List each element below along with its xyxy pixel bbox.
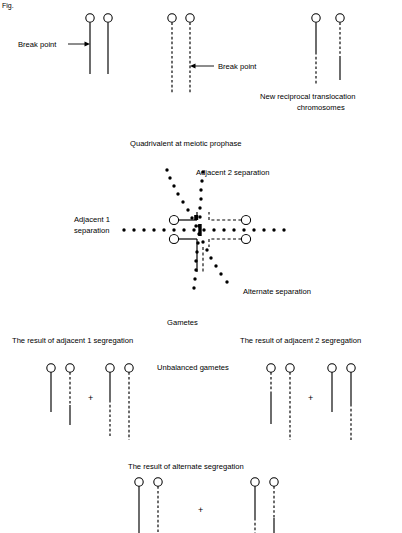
gamete-group-adjacent2-b (328, 364, 355, 440)
gamete-group-adjacent1-b (106, 364, 133, 440)
chromosome-dashed-a (168, 14, 176, 93)
centromere-icon (251, 478, 259, 486)
gametes-title: Gametes (167, 318, 198, 327)
chromosome-a2-4 (347, 364, 355, 440)
normal-solid-pair: Break point (18, 14, 112, 74)
quadrivalent-title: Quadrivalent at meiotic prophase (130, 139, 241, 148)
gamete-group-adjacent2-a (267, 364, 294, 440)
translocation-product-pair: New reciprocal translocation chromosomes (260, 14, 355, 112)
break-point-label-left: Break point (18, 40, 57, 49)
centromere-icon (267, 364, 275, 372)
adjacent-1-result-label: The result of adjacent 1 segregation (12, 336, 133, 345)
chromosome-a2-2 (286, 364, 294, 440)
centromere-icon (154, 478, 162, 486)
adjacent-2-result-label: The result of adjacent 2 segregation (240, 336, 361, 345)
plus-sign-adjacent1: + (88, 393, 93, 403)
centromere-icon (312, 14, 320, 22)
chromosome-a2-3 (328, 364, 336, 412)
separation-line-adjacent-1 (122, 228, 285, 231)
chromosome-a1-1 (47, 364, 55, 412)
centromere-icon (241, 234, 250, 243)
alternate-result-label: The result of alternate segregation (128, 462, 244, 471)
centromere-icon (241, 215, 250, 224)
break-point-arrow-left (68, 42, 90, 47)
chromosome-a2-1 (267, 364, 275, 424)
break-point-arrow-right (190, 64, 214, 69)
centromere-icon (47, 364, 55, 372)
arrow-head (85, 42, 91, 47)
unbalanced-gametes-label: Unbalanced gametes (157, 363, 229, 372)
gamete-group-alternate-a (135, 478, 162, 533)
plus-sign-alternate: + (198, 505, 203, 515)
chromosome-alt-4 (270, 478, 278, 533)
quadrivalent-arm-lower-left (169, 234, 197, 247)
break-point-label-right: Break point (218, 62, 257, 71)
chromosome-solid-b (104, 14, 112, 74)
centromere-icon (66, 364, 74, 372)
pairing-node-upper-left (194, 215, 198, 220)
adjacent-2-separation-label: Adjacent 2 separation (196, 168, 269, 177)
plus-sign-adjacent2: + (308, 393, 313, 403)
adjacent-1-separation-label-line1: Adjacent 1 (74, 215, 110, 224)
centromere-icon (270, 478, 278, 486)
translocation-caption-line2: chromosomes (297, 103, 345, 112)
centromere-icon (336, 14, 344, 22)
quadrivalent-arm-lower-right (209, 234, 251, 247)
centromere-icon (347, 364, 355, 372)
centromere-icon (86, 14, 94, 22)
gamete-group-adjacent1-a (47, 364, 74, 425)
chromosome-a1-4 (125, 364, 133, 440)
centromere-icon (104, 14, 112, 22)
chromosome-dashed-b (186, 14, 194, 93)
chromosome-alt-1 (135, 478, 143, 533)
translocation-caption-line1: New reciprocal translocation (260, 92, 355, 101)
quadrivalent-arm-upper-right (209, 212, 251, 225)
normal-dashed-pair: Break point (168, 14, 258, 93)
gamete-group-alternate-b (251, 478, 278, 533)
chromosome-translocated-a (312, 14, 320, 85)
centromere-icon (135, 478, 143, 486)
corner-mark: Fig. (2, 2, 14, 10)
chromosome-a1-3 (106, 364, 114, 436)
centromere-icon (186, 14, 194, 22)
chromosome-translocated-b (336, 14, 344, 80)
translocation-diagram: Fig. Break point (0, 0, 402, 533)
centromere-icon (169, 215, 178, 224)
centromere-icon (286, 364, 294, 372)
quadrivalent-arms (169, 212, 250, 272)
chromosome-alt-2 (154, 478, 162, 533)
centromere-icon (125, 364, 133, 372)
adjacent-1-separation-label-line2: separation (74, 226, 109, 235)
centromere-icon (106, 364, 114, 372)
arrow-head (190, 64, 196, 69)
panel-quadrivalent: Quadrivalent at meiotic prophase Adjacen… (74, 139, 311, 296)
centromere-icon (328, 364, 336, 372)
panel-gametes: Gametes The result of adjacent 1 segrega… (12, 318, 361, 533)
chromosome-alt-3 (251, 478, 259, 533)
panel-break-points: Break point Break point (18, 14, 355, 112)
alternate-separation-label: Alternate separation (243, 287, 311, 296)
figure-root: Fig. Break point (0, 0, 402, 533)
centromere-icon (169, 234, 178, 243)
centromere-icon (168, 14, 176, 22)
chromosome-a1-2 (66, 364, 74, 425)
